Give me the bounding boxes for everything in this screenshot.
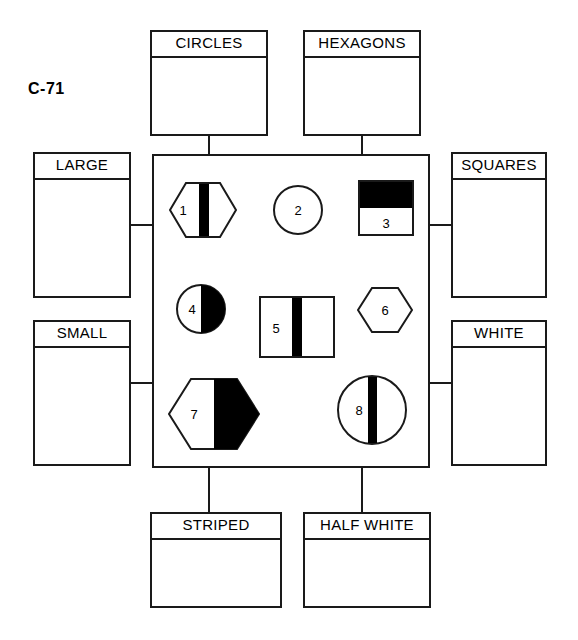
label-box-circles-dropzone[interactable] (152, 58, 266, 134)
shape-3-small-half-white-square[interactable]: 3 (358, 180, 414, 236)
label-box-small[interactable]: SMALL (33, 320, 131, 466)
label-box-circles-title: CIRCLES (152, 32, 266, 58)
label-box-white-dropzone[interactable] (453, 348, 545, 464)
shape-8-large-striped-circle[interactable]: 8 (336, 374, 408, 446)
label-box-squares-dropzone[interactable] (453, 180, 545, 296)
connector-halfwhite-to-main (361, 467, 363, 513)
label-box-squares[interactable]: SQUARES (451, 152, 547, 298)
figure-title: C-71 (28, 80, 65, 98)
label-box-large[interactable]: LARGE (33, 152, 131, 298)
connector-small-to-main (130, 382, 153, 384)
diagram-canvas: C-71 CIRCLES HEXAGONS LARGE SMALL SQUARE… (0, 0, 578, 640)
shape-2-small-white-circle[interactable]: 2 (272, 184, 324, 236)
label-box-hexagons-dropzone[interactable] (305, 58, 419, 134)
shape-pool[interactable]: 1 2 3 4 (152, 154, 430, 468)
connector-circles-to-main (208, 135, 210, 155)
label-box-circles[interactable]: CIRCLES (150, 30, 268, 136)
label-box-white-title: WHITE (453, 322, 545, 348)
label-box-striped-dropzone[interactable] (152, 540, 280, 606)
shape-1-large-striped-hexagon[interactable]: 1 (169, 182, 237, 238)
shape-7-large-half-white-hexagon[interactable]: 7 (168, 378, 260, 450)
shape-6-small-white-hexagon[interactable]: 6 (357, 287, 413, 333)
label-box-striped[interactable]: STRIPED (150, 512, 282, 608)
connector-hexagons-to-main (361, 135, 363, 155)
label-box-large-title: LARGE (35, 154, 129, 180)
label-box-squares-title: SQUARES (453, 154, 545, 180)
connector-squares-to-main (429, 224, 452, 226)
connector-striped-to-main (208, 467, 210, 513)
shape-4-small-half-white-circle[interactable]: 4 (175, 283, 227, 335)
label-box-white[interactable]: WHITE (451, 320, 547, 466)
label-box-half-white-title: HALF WHITE (305, 514, 429, 540)
label-box-small-dropzone[interactable] (35, 348, 129, 464)
label-box-small-title: SMALL (35, 322, 129, 348)
label-box-striped-title: STRIPED (152, 514, 280, 540)
label-box-half-white[interactable]: HALF WHITE (303, 512, 431, 608)
label-box-hexagons[interactable]: HEXAGONS (303, 30, 421, 136)
label-box-large-dropzone[interactable] (35, 180, 129, 296)
label-box-hexagons-title: HEXAGONS (305, 32, 419, 58)
label-box-half-white-dropzone[interactable] (305, 540, 429, 606)
connector-white-to-main (429, 382, 452, 384)
connector-large-to-main (130, 224, 153, 226)
shape-5-large-striped-square[interactable]: 5 (259, 296, 335, 358)
